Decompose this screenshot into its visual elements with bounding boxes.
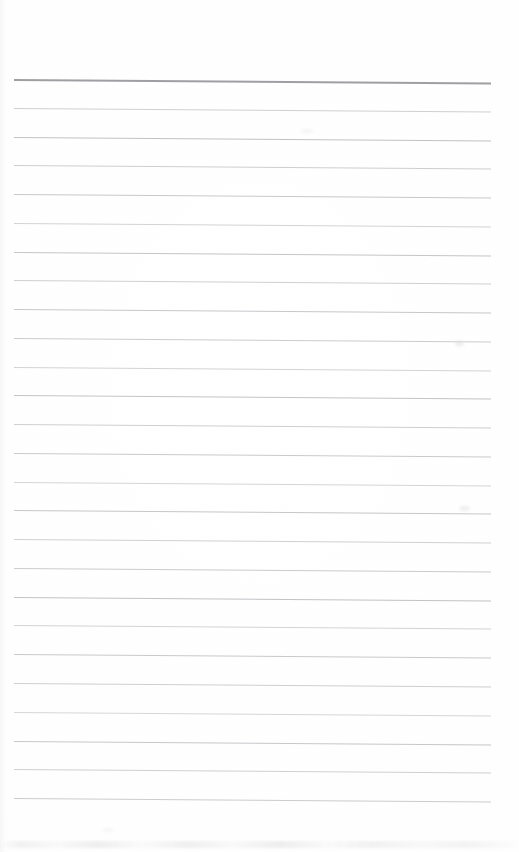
ruled-line: [14, 683, 491, 687]
ruled-line: [14, 280, 491, 284]
ruled-line: [14, 482, 491, 486]
ruled-lines-area: [0, 0, 519, 852]
ruled-line: [14, 453, 491, 457]
ruled-line: [14, 568, 491, 572]
ruled-line: [14, 137, 491, 141]
ruled-line: [14, 769, 491, 773]
ruled-line: [14, 395, 491, 399]
ruled-line: [14, 108, 491, 112]
ruled-line: [14, 625, 491, 629]
ruled-line: [14, 309, 491, 313]
ruled-line: [14, 252, 491, 256]
ruled-line: [14, 654, 491, 658]
ruled-line: [14, 510, 491, 514]
scanned-page: [0, 0, 519, 852]
ruled-line: [14, 597, 491, 601]
ruled-line: [14, 367, 491, 371]
ruled-line: [14, 712, 491, 716]
ruled-line: [14, 741, 491, 745]
ruled-line: [14, 539, 491, 543]
ruled-line: [14, 424, 491, 428]
ruled-line: [14, 798, 491, 802]
header-rule: [14, 79, 491, 84]
ruled-line: [14, 223, 491, 227]
ruled-line: [14, 165, 491, 169]
ruled-line: [14, 194, 491, 198]
ruled-line: [14, 338, 491, 342]
